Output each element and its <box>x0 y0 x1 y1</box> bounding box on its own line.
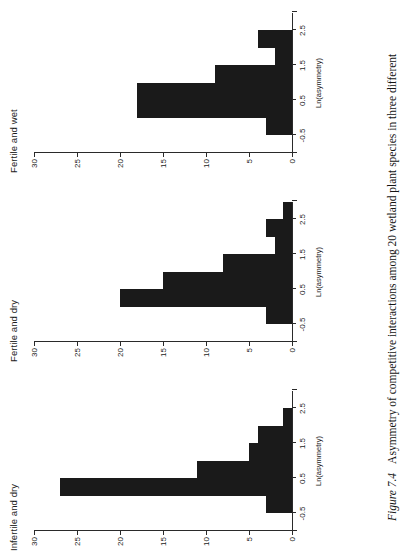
x-axis-tick <box>292 254 296 255</box>
x-axis <box>292 202 293 342</box>
histogram-bar <box>197 461 292 479</box>
histogram-bar <box>283 409 292 427</box>
x-axis-tick <box>292 289 296 290</box>
y-axis-tick-label: 0 <box>288 159 297 163</box>
histogram-bar <box>249 444 292 462</box>
histogram-bar <box>266 220 292 238</box>
x-axis-tick-label: -0.5 <box>298 507 307 521</box>
y-axis-tick <box>206 153 207 157</box>
x-axis-tick <box>292 324 296 325</box>
y-axis-tick-label: 0 <box>288 537 297 541</box>
histogram-bar <box>60 479 292 497</box>
x-axis-tick-label: 2.5 <box>298 214 307 225</box>
y-axis-tick-label: 5 <box>245 348 254 352</box>
x-axis-title: Ln(asymmetry) <box>314 391 323 531</box>
figure-canvas: Infertile and dry051015202530Frequency-0… <box>0 0 417 557</box>
y-axis-tick-label: 30 <box>30 159 39 168</box>
plot-area <box>34 391 292 531</box>
rotated-figure-wrapper: Infertile and dry051015202530Frequency-0… <box>0 0 417 557</box>
y-axis-tick <box>206 531 207 535</box>
x-axis <box>292 13 293 153</box>
histogram-bar <box>258 31 292 49</box>
y-axis-tick-label: 25 <box>73 537 82 546</box>
y-axis-tick <box>206 342 207 346</box>
y-axis-tick-label: 10 <box>202 159 211 168</box>
y-axis-tick-label: 25 <box>73 159 82 168</box>
histogram-bar <box>275 237 292 255</box>
y-axis-tick <box>34 153 35 157</box>
x-axis-tick-label: -0.5 <box>298 318 307 332</box>
y-axis-tick <box>34 342 35 346</box>
plot-area <box>34 202 292 342</box>
histogram-bar <box>283 202 292 220</box>
y-axis-tick-label: 10 <box>202 348 211 357</box>
histogram-bar <box>266 496 292 514</box>
x-axis-tick <box>292 219 296 220</box>
histogram-panel: Fertile and dry051015202530-0.50.51.52.5… <box>0 190 368 368</box>
y-axis-tick-label: 30 <box>30 348 39 357</box>
y-axis-tick <box>120 531 121 535</box>
x-axis <box>292 391 293 531</box>
y-axis-tick <box>163 531 164 535</box>
y-axis-tick-label: 15 <box>159 348 168 357</box>
y-axis-tick <box>249 153 250 157</box>
y-axis-tick <box>163 342 164 346</box>
y-axis-tick <box>249 531 250 535</box>
y-axis-tick <box>292 342 293 346</box>
x-axis-tick-label: 2.5 <box>298 25 307 36</box>
y-axis-tick-label: 15 <box>159 537 168 546</box>
plot-area <box>34 13 292 153</box>
figure-number: Figure 7.4 <box>386 473 398 521</box>
y-axis-tick <box>163 153 164 157</box>
y-axis-tick-label: 20 <box>116 348 125 357</box>
x-axis-tick <box>292 443 296 444</box>
figure-caption-text: Asymmetry of competitive interactions am… <box>386 54 398 464</box>
x-axis-tick <box>292 478 296 479</box>
histogram-bar <box>163 272 292 290</box>
x-axis-tick <box>292 135 296 136</box>
x-axis-tick <box>292 100 296 101</box>
x-axis-tick-label: -0.5 <box>298 129 307 143</box>
x-axis-tick <box>292 513 296 514</box>
histogram-panel: Infertile and dry051015202530Frequency-0… <box>0 379 368 557</box>
histogram-bar <box>266 118 292 136</box>
y-axis-tick <box>34 531 35 535</box>
x-axis-tick <box>292 30 296 31</box>
x-axis-tick-label: 1.5 <box>298 438 307 449</box>
y-axis-tick <box>249 342 250 346</box>
y-axis-tick-label: 20 <box>116 159 125 168</box>
histogram-bar <box>215 66 292 84</box>
x-axis-tick <box>292 408 296 409</box>
x-axis-tick-label: 1.5 <box>298 60 307 71</box>
histogram-bar <box>137 101 292 119</box>
y-axis-tick <box>120 153 121 157</box>
histogram-bar <box>258 426 292 444</box>
y-axis-tick <box>292 531 293 535</box>
histogram-bar <box>137 83 292 101</box>
x-axis-tick-label: 2.5 <box>298 403 307 414</box>
x-axis-title: Ln(asymmetry) <box>314 13 323 153</box>
histogram-bar <box>275 48 292 66</box>
panel-title: Infertile and dry <box>8 484 19 551</box>
panel-title: Fertile and wet <box>8 109 19 173</box>
y-axis-tick-label: 25 <box>73 348 82 357</box>
figure-caption: Figure 7.4Asymmetry of competitive inter… <box>386 21 398 521</box>
x-axis-tick-label: 0.5 <box>298 95 307 106</box>
y-axis-tick <box>77 342 78 346</box>
y-axis-tick-label: 10 <box>202 537 211 546</box>
y-axis-tick-label: 15 <box>159 159 168 168</box>
x-axis-tick <box>292 65 296 66</box>
histogram-bar <box>223 255 292 273</box>
x-axis-tick-label: 1.5 <box>298 249 307 260</box>
y-axis-tick-label: 5 <box>245 159 254 163</box>
histogram-bar <box>266 307 292 325</box>
panel-row: Infertile and dry051015202530Frequency-0… <box>0 0 368 557</box>
y-axis-tick <box>120 342 121 346</box>
x-axis-tick-label: 0.5 <box>298 284 307 295</box>
y-axis-tick <box>77 531 78 535</box>
x-axis-title: Ln(asymmetry) <box>314 202 323 342</box>
y-axis-tick <box>292 153 293 157</box>
panel-title: Fertile and dry <box>8 300 19 362</box>
y-axis-tick-label: 5 <box>245 537 254 541</box>
histogram-bar <box>120 290 292 308</box>
